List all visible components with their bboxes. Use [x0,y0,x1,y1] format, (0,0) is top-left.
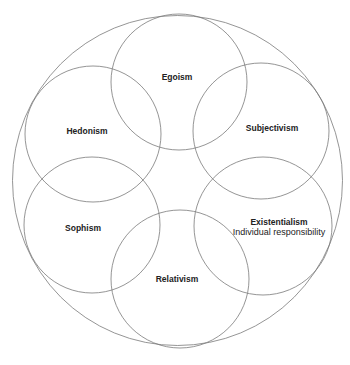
philosophy-circles-diagram: EgoismSubjectivismExistentialismIndividu… [0,0,350,365]
relativism-label: Relativism [156,274,199,284]
subjectivism-label: Subjectivism [246,123,299,133]
labels-group: EgoismSubjectivismExistentialismIndividu… [65,72,326,284]
egoism-label: Egoism [162,72,193,82]
hedonism-label: Hedonism [66,126,108,136]
inner-circles-group [24,14,332,348]
sophism-label: Sophism [65,223,101,233]
existentialism-label: Existentialism [250,217,308,227]
existentialism-sublabel: Individual responsibility [233,227,326,237]
outer-circle [13,16,343,346]
